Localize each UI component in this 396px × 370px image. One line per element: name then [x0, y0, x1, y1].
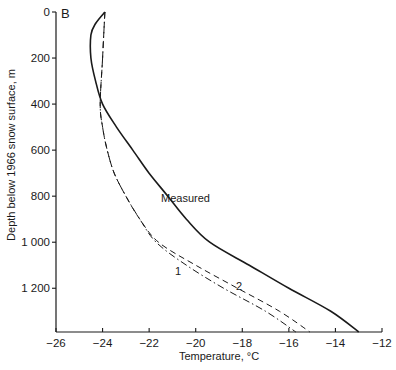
- series-group: [90, 12, 358, 332]
- curve-label: Measured: [161, 192, 210, 204]
- series-1-line: [100, 12, 296, 332]
- y-tick-label: 1 200: [21, 282, 50, 294]
- temperature-depth-chart: 02004006008001 0001 200 −26−24−22−20−18−…: [0, 0, 396, 370]
- curve-labels: Measured12: [161, 192, 242, 292]
- x-tick-label: −20: [186, 337, 206, 349]
- y-tick-label: 1 000: [21, 236, 50, 248]
- x-axis-label: Temperature, °C: [179, 350, 259, 362]
- x-tick-label: −22: [139, 337, 159, 349]
- curve-label: 1: [175, 265, 181, 277]
- y-tick-label: 400: [31, 98, 50, 110]
- panel-label: B: [61, 6, 70, 21]
- x-ticks: −26−24−22−20−18−16−14−12: [46, 328, 392, 349]
- y-tick-label: 800: [31, 190, 50, 202]
- series-2-line: [100, 12, 310, 332]
- x-tick-label: −26: [46, 337, 66, 349]
- x-tick-label: −24: [93, 337, 113, 349]
- curve-label: 2: [236, 280, 242, 292]
- x-tick-label: −12: [372, 337, 392, 349]
- x-tick-label: −14: [326, 337, 346, 349]
- y-tick-label: 600: [31, 144, 50, 156]
- x-tick-label: −18: [233, 337, 253, 349]
- x-tick-label: −16: [279, 337, 299, 349]
- series-measured-line: [90, 12, 358, 332]
- y-ticks: 02004006008001 0001 200: [21, 6, 56, 294]
- y-tick-label: 200: [31, 52, 50, 64]
- y-tick-label: 0: [44, 6, 50, 18]
- axes: [56, 12, 382, 332]
- y-axis-label: Depth below 1966 snow surface, m: [5, 69, 17, 241]
